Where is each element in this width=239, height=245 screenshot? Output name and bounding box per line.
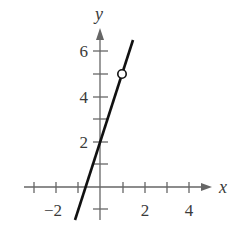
graph: −2 2 4 x 6 4 2 y — [0, 0, 239, 245]
y-axis-label: y — [93, 4, 103, 24]
x-axis: −2 2 4 x — [24, 177, 227, 220]
y-tick-label: 6 — [80, 42, 89, 61]
open-circle-point — [118, 70, 126, 78]
x-tick-label: 4 — [185, 201, 194, 220]
y-axis-arrow-icon — [96, 28, 104, 40]
x-axis-label: x — [218, 177, 227, 197]
y-tick-label: 2 — [80, 133, 89, 152]
y-tick-label: 4 — [80, 88, 89, 107]
x-tick-label: −2 — [44, 201, 62, 220]
function-line — [75, 40, 133, 220]
x-tick-label: 2 — [141, 201, 150, 220]
x-axis-arrow-icon — [201, 183, 212, 191]
